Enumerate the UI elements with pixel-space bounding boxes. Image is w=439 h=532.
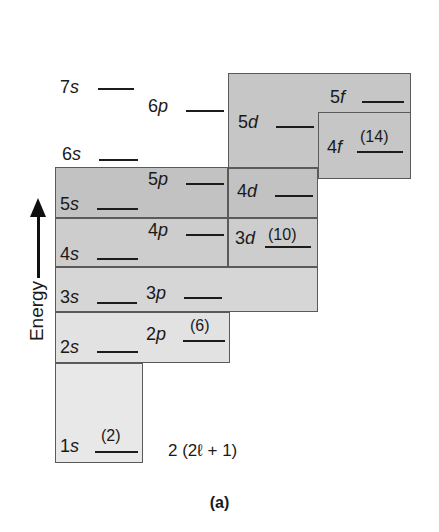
energy-level-line-2p <box>183 340 225 342</box>
orbital-label-2p: 2p <box>146 325 166 343</box>
orbital-n-5d: 5 <box>238 112 248 132</box>
orbital-l-4f: f <box>337 137 342 157</box>
energy-level-line-5d <box>276 126 314 128</box>
degeneracy-formula: 2 (2ℓ + 1) <box>168 441 237 461</box>
orbital-l-6p: p <box>158 96 168 116</box>
orbital-l-5f: f <box>340 87 345 107</box>
orbital-n-4p: 4 <box>148 220 158 240</box>
orbital-label-3p: 3p <box>146 284 166 302</box>
energy-level-line-4p <box>186 234 224 236</box>
orbital-n-3s: 3 <box>60 287 70 307</box>
energy-level-line-4d <box>275 195 313 197</box>
orbital-n-3d: 3 <box>235 228 245 248</box>
degeneracy-label-2p: (6) <box>190 318 210 334</box>
orbital-n-2p: 2 <box>146 324 156 344</box>
orbital-l-4d: d <box>247 181 257 201</box>
orbital-l-1s: s <box>70 436 79 456</box>
orbital-n-3p: 3 <box>146 283 156 303</box>
orbital-label-5f: 5f <box>330 88 345 106</box>
orbital-l-4p: p <box>158 220 168 240</box>
orbital-l-6s: s <box>72 144 81 164</box>
orbital-n-4f: 4 <box>327 137 337 157</box>
orbital-label-2s: 2s <box>60 338 79 356</box>
energy-level-line-5s <box>97 208 138 210</box>
orbital-n-1s: 1 <box>60 436 70 456</box>
energy-level-line-3d <box>265 246 311 248</box>
orbital-label-5p: 5p <box>148 170 168 188</box>
figure-caption: (a) <box>0 494 439 512</box>
energy-level-line-5f <box>362 101 404 103</box>
orbital-l-7s: s <box>70 77 79 97</box>
orbital-n-5f: 5 <box>330 87 340 107</box>
orbital-label-3s: 3s <box>60 288 79 306</box>
orbital-label-3d: 3d <box>235 229 255 247</box>
energy-level-line-5p <box>186 183 224 185</box>
degeneracy-label-1s: (2) <box>101 428 121 444</box>
energy-axis: Energy <box>16 196 56 376</box>
orbital-label-4d: 4d <box>237 182 257 200</box>
orbital-l-3s: s <box>70 287 79 307</box>
orbital-l-5s: s <box>70 194 79 214</box>
orbital-label-4p: 4p <box>148 221 168 239</box>
shaded-band-shell-3 <box>55 267 318 312</box>
orbital-label-7s: 7s <box>60 78 79 96</box>
energy-level-line-7s <box>98 88 134 90</box>
orbital-l-3p: p <box>156 283 166 303</box>
shaded-band-shell-5-left <box>55 167 228 218</box>
energy-level-line-2s <box>97 351 138 353</box>
orbital-energy-diagram: 7s 6p 5f 5d 4f (14) 6s 5p 4d 5s 4p <box>0 0 439 532</box>
orbital-n-5p: 5 <box>148 169 158 189</box>
orbital-l-2p: p <box>156 324 166 344</box>
orbital-n-7s: 7 <box>60 77 70 97</box>
orbital-l-4s: s <box>70 244 79 264</box>
orbital-label-5s: 5s <box>60 195 79 213</box>
shaded-band-shell-4-left <box>55 218 228 267</box>
orbital-l-5p: p <box>158 169 168 189</box>
orbital-label-4s: 4s <box>60 245 79 263</box>
orbital-n-6p: 6 <box>148 96 158 116</box>
energy-level-line-4f <box>357 151 403 153</box>
orbital-label-1s: 1s <box>60 437 79 455</box>
orbital-n-5s: 5 <box>60 194 70 214</box>
orbital-n-4s: 4 <box>60 244 70 264</box>
energy-level-line-3s <box>97 302 137 304</box>
orbital-l-2s: s <box>70 337 79 357</box>
orbital-label-5d: 5d <box>238 113 258 131</box>
energy-level-line-4s <box>97 258 138 260</box>
energy-level-line-1s <box>95 451 138 453</box>
energy-axis-label: Energy <box>26 263 48 359</box>
energy-level-line-6p <box>186 110 224 112</box>
energy-level-line-3p <box>184 297 222 299</box>
energy-level-line-6s <box>99 159 138 161</box>
orbital-n-2s: 2 <box>60 337 70 357</box>
orbital-label-6p: 6p <box>148 97 168 115</box>
degeneracy-label-4f: (14) <box>360 129 388 145</box>
orbital-n-6s: 6 <box>62 144 72 164</box>
orbital-n-4d: 4 <box>237 181 247 201</box>
orbital-label-4f: 4f <box>327 138 342 156</box>
orbital-l-5d: d <box>248 112 258 132</box>
degeneracy-label-3d: (10) <box>268 227 296 243</box>
orbital-l-3d: d <box>245 228 255 248</box>
orbital-label-6s: 6s <box>62 145 81 163</box>
